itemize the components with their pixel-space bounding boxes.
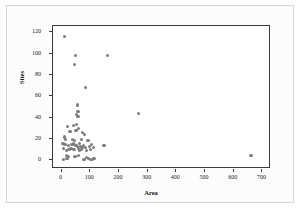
data-point bbox=[62, 158, 65, 161]
x-axis-tick bbox=[175, 169, 176, 172]
scatter-plot-figure: Sites Area 02040608010012001002003004005… bbox=[0, 0, 302, 211]
x-axis-tick-label: 400 bbox=[171, 174, 180, 180]
y-axis-tick bbox=[49, 117, 52, 118]
y-axis-tick bbox=[49, 74, 52, 75]
y-axis-tick-label: 0 bbox=[0, 156, 46, 162]
x-axis-label: Area bbox=[0, 190, 302, 197]
data-point bbox=[92, 157, 95, 160]
y-axis-tick bbox=[49, 31, 52, 32]
data-point bbox=[85, 149, 88, 152]
x-axis-tick bbox=[261, 169, 262, 172]
x-axis-tick bbox=[147, 169, 148, 172]
y-axis-tick-label: 20 bbox=[0, 135, 46, 141]
x-axis-tick-label: 700 bbox=[257, 174, 266, 180]
data-point bbox=[65, 157, 68, 160]
x-axis-tick bbox=[89, 169, 90, 172]
data-point bbox=[83, 133, 86, 136]
data-point bbox=[89, 148, 92, 151]
x-axis-tick bbox=[61, 169, 62, 172]
data-point bbox=[83, 158, 86, 161]
y-axis-tick bbox=[49, 95, 52, 96]
data-point bbox=[74, 54, 77, 57]
data-point bbox=[64, 138, 67, 141]
x-axis-tick-label: 100 bbox=[85, 174, 94, 180]
y-axis-tick-label: 100 bbox=[0, 50, 46, 56]
data-point bbox=[77, 154, 80, 157]
y-axis-tick bbox=[49, 159, 52, 160]
data-point bbox=[84, 86, 87, 89]
x-axis-tick bbox=[233, 169, 234, 172]
data-point bbox=[80, 138, 83, 141]
data-point bbox=[86, 139, 89, 142]
y-axis-tick-label: 40 bbox=[0, 114, 46, 120]
data-point bbox=[249, 154, 252, 157]
y-axis-tick-label: 60 bbox=[0, 92, 46, 98]
data-point bbox=[92, 146, 95, 149]
x-axis-tick bbox=[204, 169, 205, 172]
x-axis-tick-label: 300 bbox=[142, 174, 151, 180]
data-point bbox=[137, 112, 140, 115]
data-point bbox=[66, 125, 69, 128]
y-axis-tick bbox=[49, 53, 52, 54]
x-axis-tick-label: 500 bbox=[200, 174, 209, 180]
data-point bbox=[80, 148, 83, 151]
data-point bbox=[77, 127, 80, 130]
data-point bbox=[106, 54, 109, 57]
x-axis-tick-label: 0 bbox=[59, 174, 62, 180]
x-axis-tick bbox=[118, 169, 119, 172]
data-point bbox=[75, 123, 78, 126]
x-axis-tick-label: 200 bbox=[113, 174, 122, 180]
y-axis-tick-label: 80 bbox=[0, 71, 46, 77]
data-point bbox=[73, 63, 76, 66]
data-point bbox=[63, 35, 66, 38]
data-point bbox=[76, 115, 79, 118]
data-point bbox=[76, 103, 79, 106]
y-axis-tick bbox=[49, 138, 52, 139]
data-point bbox=[72, 148, 75, 151]
data-point bbox=[74, 129, 77, 132]
data-point bbox=[68, 130, 71, 133]
plot-area bbox=[52, 25, 270, 168]
x-axis-tick-label: 600 bbox=[228, 174, 237, 180]
data-point bbox=[102, 144, 105, 147]
y-axis-tick-label: 120 bbox=[0, 28, 46, 34]
